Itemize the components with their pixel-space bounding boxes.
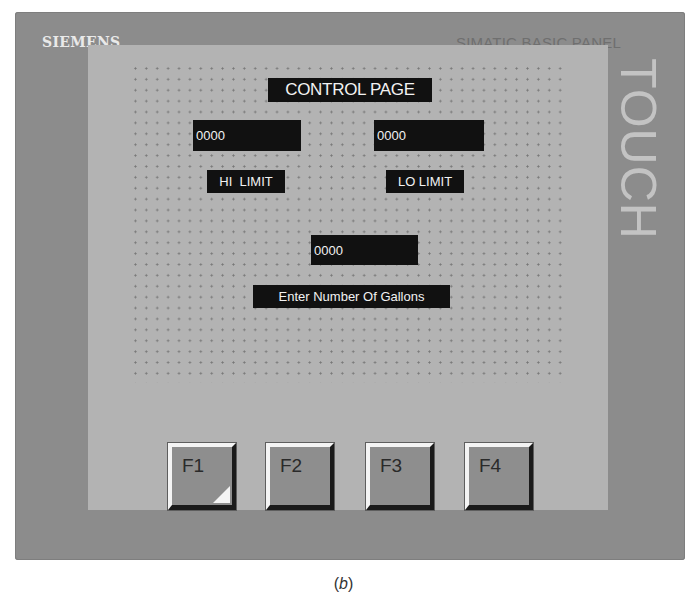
f2-key[interactable]: F2 (266, 443, 334, 510)
figure-caption: (b) (0, 575, 687, 593)
f2-key-label: F2 (280, 455, 302, 477)
caption-close-paren: ) (348, 575, 353, 592)
design-grid-dots (130, 63, 562, 383)
lo-limit-label: LO LIMIT (386, 170, 464, 193)
f3-key-label: F3 (380, 455, 402, 477)
hi-limit-label-text: HI LIMIT (219, 174, 272, 189)
f1-key-label: F1 (182, 455, 204, 477)
hi-limit-io-field[interactable]: 0000 (193, 120, 301, 151)
touch-label-text: TOUCH (609, 58, 667, 240)
lo-limit-io-field[interactable]: 0000 (374, 120, 484, 151)
corner-triangle-icon (213, 486, 230, 503)
f1-key[interactable]: F1 (168, 443, 236, 510)
page-title: CONTROL PAGE (268, 78, 432, 102)
hi-limit-label: HI LIMIT (207, 170, 285, 193)
gallons-label: Enter Number Of Gallons (253, 285, 450, 308)
figure: SIEMENS SIMATIC BASIC PANEL TOUCH CONTRO… (0, 0, 687, 601)
f3-key[interactable]: F3 (366, 443, 434, 510)
caption-letter: b (339, 575, 348, 592)
gallons-io-field[interactable]: 0000 (311, 235, 418, 265)
f4-key-label: F4 (479, 455, 501, 477)
f4-key[interactable]: F4 (465, 443, 533, 510)
touch-side-label: TOUCH (612, 44, 664, 254)
hmi-screen: CONTROL PAGE 0000 0000 HI LIMIT LO LIMIT… (88, 45, 608, 510)
